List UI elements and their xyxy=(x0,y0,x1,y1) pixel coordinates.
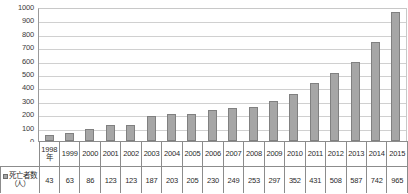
plot-area xyxy=(38,8,407,142)
bar[interactable] xyxy=(310,83,319,141)
bar[interactable] xyxy=(228,108,237,141)
bar[interactable] xyxy=(391,12,400,141)
series-label-line2: （人） xyxy=(1,181,39,190)
bar[interactable] xyxy=(85,129,94,141)
y-tick-label: 600 xyxy=(22,58,34,66)
table-cell-year: 2001 xyxy=(100,142,120,167)
table-cell-year: 2009 xyxy=(264,142,284,167)
bar[interactable] xyxy=(371,42,380,141)
y-tick-label: 800 xyxy=(22,31,34,39)
bar-slot xyxy=(223,9,243,141)
table-cell-value: 123 xyxy=(121,167,141,194)
bar-slot xyxy=(243,9,263,141)
bar-slot xyxy=(345,9,365,141)
table-cell-value: 203 xyxy=(162,167,182,194)
table-cell-value: 86 xyxy=(80,167,100,194)
table-cell-year: 2013 xyxy=(346,142,366,167)
bar-slot xyxy=(100,9,120,141)
table-row-years: 1998年19992000200120022003200420052006200… xyxy=(1,142,408,167)
bar-slot xyxy=(324,9,344,141)
table-cell-value: 230 xyxy=(203,167,223,194)
bar[interactable] xyxy=(147,116,156,141)
bar-slot xyxy=(304,9,324,141)
bar[interactable] xyxy=(330,73,339,141)
series-legend-header: 死亡者数 （人） xyxy=(1,167,40,194)
table-cell-year: 2006 xyxy=(203,142,223,167)
table-cell-year: 1999 xyxy=(59,142,79,167)
bar-slot xyxy=(202,9,222,141)
y-tick-label: 400 xyxy=(22,85,34,93)
table-cell-year: 2002 xyxy=(121,142,141,167)
table-cell-value: 965 xyxy=(387,167,408,194)
y-tick-label: 200 xyxy=(22,111,34,119)
y-tick-label: 500 xyxy=(22,71,34,79)
bar-slot xyxy=(59,9,79,141)
table-cell-value: 297 xyxy=(264,167,284,194)
bar-slot xyxy=(161,9,181,141)
y-axis-tick-labels: 10009008007006005004003002001000 xyxy=(0,0,36,145)
table-row-values: 死亡者数 （人） 4363861231231872032052302492532… xyxy=(1,167,408,194)
table-cell-year: 2008 xyxy=(244,142,264,167)
bar[interactable] xyxy=(167,114,176,141)
table-cell-value: 43 xyxy=(39,167,59,194)
bar-slot xyxy=(386,9,406,141)
bar-slot xyxy=(365,9,385,141)
table-cell-year: 2014 xyxy=(367,142,387,167)
bar-slot xyxy=(39,9,59,141)
table-cell-value: 249 xyxy=(223,167,243,194)
bar[interactable] xyxy=(187,114,196,141)
bar-slot xyxy=(284,9,304,141)
table-cell-year: 2000 xyxy=(80,142,100,167)
table-cell-year: 2012 xyxy=(326,142,346,167)
table-cell-value: 63 xyxy=(59,167,79,194)
table-cell-year: 1998年 xyxy=(39,142,59,167)
bar[interactable] xyxy=(126,125,135,141)
table-cell-value: 187 xyxy=(141,167,161,194)
y-tick-label: 700 xyxy=(22,44,34,52)
y-tick-label: 100 xyxy=(22,125,34,133)
y-tick-label: 300 xyxy=(22,98,34,106)
bar-slot xyxy=(80,9,100,141)
table-cell-value: 508 xyxy=(326,167,346,194)
year-label-line2: 年 xyxy=(40,154,59,162)
table-cell-year: 2011 xyxy=(305,142,325,167)
bar[interactable] xyxy=(289,94,298,141)
bar-slot xyxy=(141,9,161,141)
plot-region: 10009008007006005004003002001000 xyxy=(0,0,408,145)
data-table: 1998年19992000200120022003200420052006200… xyxy=(0,141,408,193)
table-cell-year: 2004 xyxy=(162,142,182,167)
bars-layer xyxy=(39,9,406,141)
table-cell-value: 431 xyxy=(305,167,325,194)
table-corner-blank xyxy=(1,142,40,167)
y-tick-label: 900 xyxy=(22,18,34,26)
table-cell-year: 2007 xyxy=(223,142,243,167)
bar[interactable] xyxy=(106,125,115,141)
table-cell-value: 253 xyxy=(244,167,264,194)
bar[interactable] xyxy=(269,101,278,141)
table-cell-value: 123 xyxy=(100,167,120,194)
bar-slot xyxy=(121,9,141,141)
bar-chart-with-data-table: 10009008007006005004003002001000 1998年19… xyxy=(0,0,408,193)
bar[interactable] xyxy=(65,133,74,141)
table-cell-value: 352 xyxy=(285,167,305,194)
table-cell-value: 205 xyxy=(182,167,202,194)
bar-slot xyxy=(263,9,283,141)
table-cell-year: 2015 xyxy=(387,142,408,167)
table-cell-year: 2005 xyxy=(182,142,202,167)
bar[interactable] xyxy=(208,110,217,141)
bar-slot xyxy=(182,9,202,141)
table-cell-value: 587 xyxy=(346,167,366,194)
table-cell-year: 2003 xyxy=(141,142,161,167)
bar[interactable] xyxy=(351,62,360,141)
bar[interactable] xyxy=(249,107,258,141)
y-tick-label: 1000 xyxy=(18,4,34,12)
square-swatch-icon xyxy=(3,174,8,179)
table-cell-year: 2010 xyxy=(285,142,305,167)
table-cell-value: 742 xyxy=(367,167,387,194)
